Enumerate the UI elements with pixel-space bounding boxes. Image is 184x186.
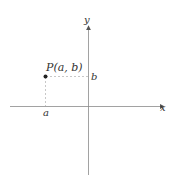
point-label: P(a, b) xyxy=(45,61,83,74)
y-coord-label: b xyxy=(91,71,97,82)
point-p xyxy=(44,75,48,79)
x-coord-label: a xyxy=(43,107,49,118)
x-axis-label: x xyxy=(160,102,166,113)
y-axis-label: y xyxy=(83,14,90,25)
coordinate-diagram: P(a, b) b a y x xyxy=(0,0,184,186)
